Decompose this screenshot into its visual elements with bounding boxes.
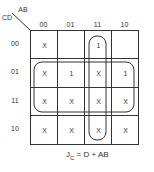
- group-loop-ab: [89, 36, 106, 140]
- equation-rhs: = D + AB: [74, 150, 108, 159]
- simplified-equation: JC = D + AB: [66, 150, 146, 161]
- grouping-loops: [0, 0, 154, 172]
- group-loop-d: [34, 62, 134, 112]
